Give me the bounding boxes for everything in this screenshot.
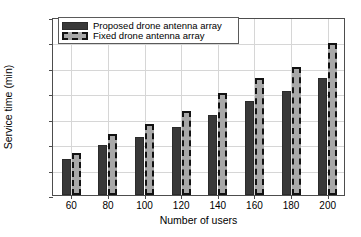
bar-proposed-160: [245, 101, 254, 195]
bar-proposed-60: [62, 159, 71, 195]
y-tick-mark: [49, 146, 53, 147]
x-tick-label: 60: [51, 201, 91, 211]
y-tick-mark: [49, 172, 53, 173]
x-tick-mark: [254, 195, 255, 199]
bar-proposed-100: [135, 137, 144, 195]
y-tick-mark: [49, 197, 53, 198]
x-tick-mark: [71, 195, 72, 199]
bar-fixed-100: [145, 124, 154, 195]
y-tick-mark: [49, 44, 53, 45]
y-axis-title-wrapper: Service time (min): [14, 18, 15, 196]
gridline-horizontal: [53, 44, 344, 45]
legend-label-proposed: Proposed drone antenna array: [93, 21, 222, 30]
x-axis-title: Number of users: [52, 214, 345, 226]
bar-fixed-80: [108, 134, 117, 195]
legend-item-proposed: Proposed drone antenna array: [62, 21, 235, 30]
bar-proposed-180: [282, 91, 291, 195]
bar-fixed-60: [72, 153, 81, 195]
y-tick-mark: [49, 95, 53, 96]
legend-label-fixed: Fixed drone antenna array: [93, 31, 204, 40]
bar-fixed-120: [182, 111, 191, 195]
x-tick-mark: [328, 195, 329, 199]
bar-fixed-160: [255, 78, 264, 195]
chart-figure: Service time (min) 05101520253035 608010…: [0, 0, 361, 237]
x-tick-label: 180: [271, 201, 311, 211]
y-tick-mark: [49, 121, 53, 122]
y-tick-mark: [49, 70, 53, 71]
x-tick-mark: [291, 195, 292, 199]
y-axis-title: Service time (min): [2, 65, 14, 150]
x-tick-mark: [108, 195, 109, 199]
x-tick-label: 140: [198, 201, 238, 211]
bar-proposed-80: [98, 145, 107, 195]
x-tick-label: 200: [308, 201, 348, 211]
x-tick-mark: [145, 195, 146, 199]
bar-fixed-140: [218, 93, 227, 195]
x-tick-mark: [218, 195, 219, 199]
x-tick-mark: [181, 195, 182, 199]
bar-fixed-180: [292, 67, 301, 195]
bar-fixed-200: [328, 43, 337, 195]
x-tick-label: 80: [88, 201, 128, 211]
x-tick-label: 120: [161, 201, 201, 211]
y-tick-mark: [49, 19, 53, 20]
bar-proposed-200: [318, 78, 327, 195]
x-tick-label: 100: [125, 201, 165, 211]
bar-proposed-120: [172, 127, 181, 195]
proposed-bar-swatch-icon: [62, 22, 88, 30]
fixed-bar-swatch-icon: [62, 32, 88, 40]
x-tick-label: 160: [234, 201, 274, 211]
chart-legend: Proposed drone antenna array Fixed drone…: [58, 17, 239, 44]
bar-proposed-140: [208, 115, 217, 195]
legend-item-fixed: Fixed drone antenna array: [62, 31, 235, 40]
plot-area: 05101520253035 6080100120140160180200 Pr…: [52, 18, 345, 196]
